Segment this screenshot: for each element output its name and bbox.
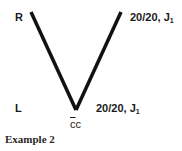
left-eye-acuity-value: 20/20, J [96,102,136,114]
left-eye-label: L [15,103,22,114]
correction-rest: c [76,118,82,130]
left-eye-acuity: 20/20, J1 [96,103,140,115]
left-eye-acuity-subscript: 1 [136,108,140,115]
right-v-line [76,12,121,110]
left-v-line [31,12,76,110]
right-eye-label: R [15,12,23,23]
correction-label: cc [70,119,81,130]
right-eye-acuity: 20/20, J1 [130,12,174,24]
caption: Example 2 [5,133,55,145]
right-eye-acuity-subscript: 1 [170,17,174,24]
right-eye-acuity-value: 20/20, J [130,11,170,23]
